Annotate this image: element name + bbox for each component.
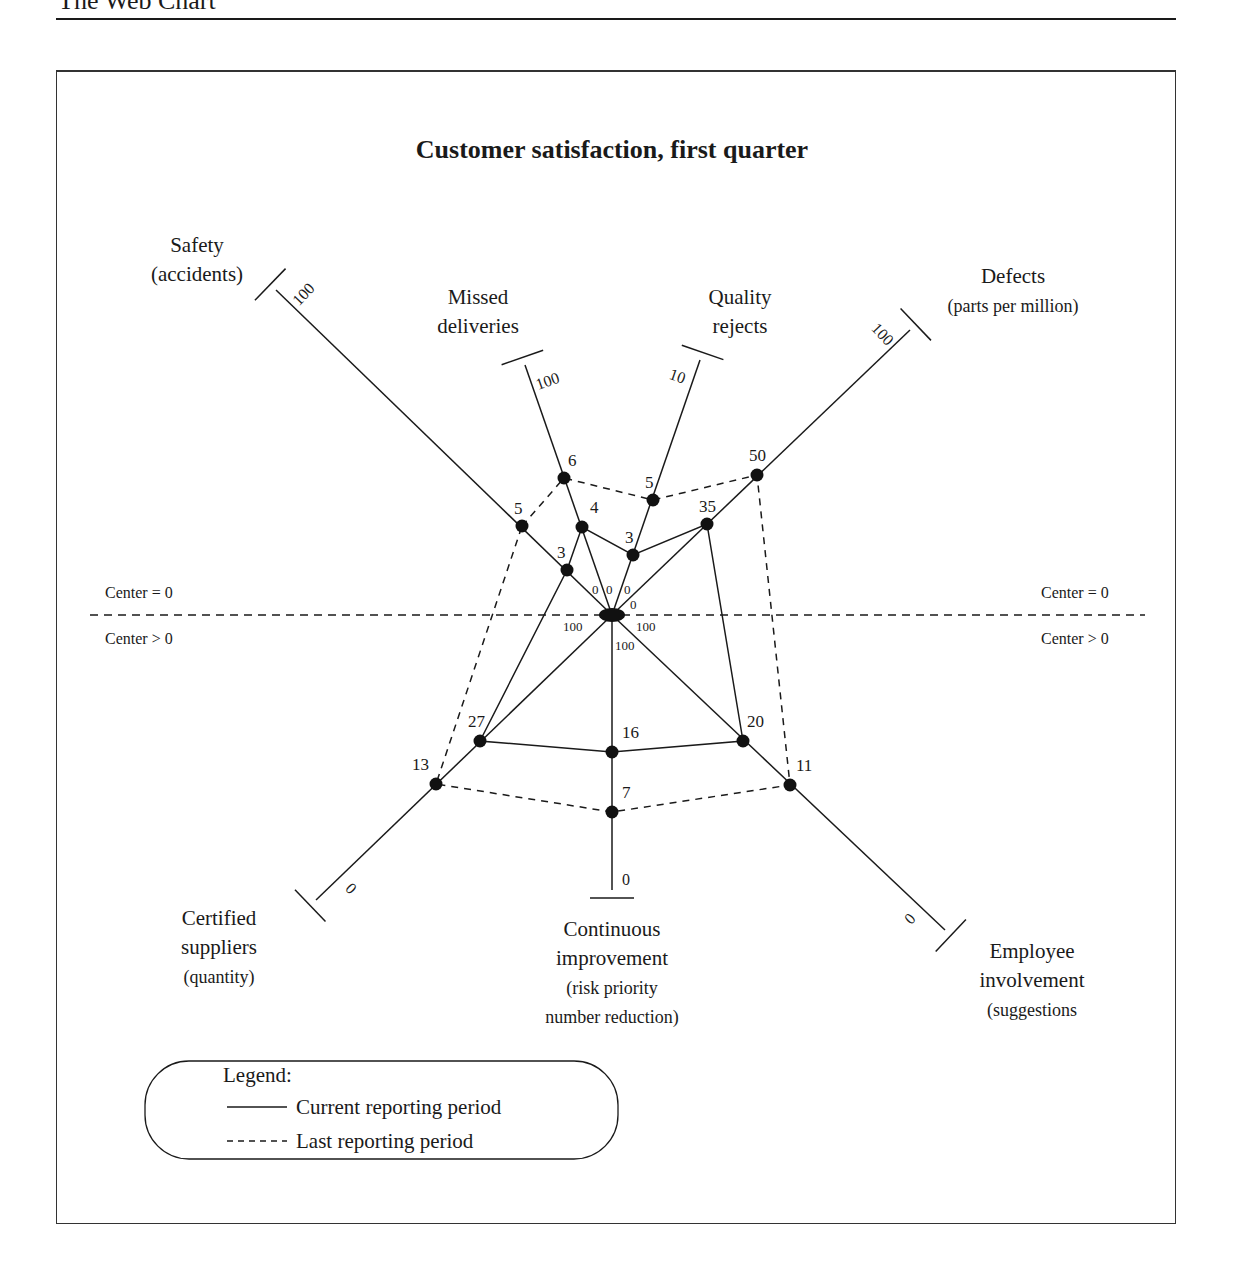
divider-upper-label-right: Center = 0 [1041,584,1109,601]
axis-label-quality-rejects-line-1: rejects [713,314,768,338]
web-chart: Customer satisfaction, first quarter Cen… [0,0,1234,1275]
data-value-continuous-improvement-last: 7 [622,783,631,802]
legend: Legend: Current reporting period Last re… [145,1061,618,1159]
data-value-missed-deliveries-current: 4 [590,498,599,517]
data-point-safety-current [561,564,574,577]
center-value-label: 100 [563,619,583,634]
data-value-quality-rejects-current: 3 [625,528,634,547]
axis-line-safety [276,290,612,615]
data-point-missed-deliveries-last [558,472,571,485]
center-value-label: 100 [636,619,656,634]
axis-line-quality-rejects [612,360,700,615]
chart-title: Customer satisfaction, first quarter [416,135,808,164]
center-hub [599,608,625,622]
center-value-label: 0 [606,582,613,597]
data-point-certified-suppliers-current [474,735,487,748]
axis-line-certified-suppliers [316,615,612,900]
labels-layer: Safety(accidents)MisseddeliveriesQuality… [151,233,1085,1028]
axis-label-continuous-improvement-line-2: (risk priority [566,978,658,999]
data-point-employee-involvement-last [784,779,797,792]
axis-outer-value-safety: 100 [289,280,318,309]
axis-label-continuous-improvement-line-3: number reduction) [545,1007,678,1028]
axis-outer-value-employee-involvement: 0 [901,910,919,927]
data-value-continuous-improvement-current: 16 [622,723,639,742]
data-point-continuous-improvement-last [606,806,619,819]
axis-label-defects-line-1: (parts per million) [948,296,1079,317]
axis-end-tick-missed-deliveries [502,350,544,364]
axis-label-safety-line-0: Safety [170,233,224,257]
axis-label-safety-line-1: (accidents) [151,262,243,286]
axis-outer-value-missed-deliveries: 100 [533,369,561,393]
axis-label-certified-suppliers-line-0: Certified [182,906,257,930]
data-value-safety-current: 3 [557,543,566,562]
data-value-missed-deliveries-last: 6 [568,451,577,470]
axis-label-continuous-improvement-line-0: Continuous [564,917,661,941]
center-value-label: 100 [615,638,635,653]
axis-label-quality-rejects-line-0: Quality [709,285,772,309]
axis-label-missed-deliveries-line-0: Missed [448,285,509,309]
data-point-certified-suppliers-last [430,778,443,791]
axis-outer-value-continuous-improvement: 0 [622,871,630,888]
axis-line-employee-involvement [612,615,945,930]
axis-outer-value-quality-rejects: 10 [667,365,688,386]
divider-upper-label-left: Center = 0 [105,584,173,601]
axis-end-tick-employee-involvement [936,920,966,952]
axis-outer-value-certified-suppliers: 0 [342,880,360,898]
data-point-safety-last [516,520,529,533]
axis-end-tick-quality-rejects [682,345,724,359]
axis-label-employee-involvement-line-2: (suggestions [987,1000,1077,1021]
axis-label-defects-line-0: Defects [981,264,1045,288]
data-point-employee-involvement-current [737,735,750,748]
center-value-label: 0 [624,582,631,597]
data-value-safety-last: 5 [514,499,523,518]
legend-item-last: Last reporting period [296,1129,474,1153]
data-point-quality-rejects-last [647,494,660,507]
series-last-period-polygon [436,475,790,812]
axis-line-missed-deliveries [525,365,612,615]
data-point-defects-last [751,469,764,482]
legend-item-current: Current reporting period [296,1095,502,1119]
data-value-employee-involvement-last: 11 [796,756,812,775]
data-value-defects-current: 35 [699,497,716,516]
axis-label-employee-involvement-line-0: Employee [989,939,1074,963]
center-value-label: 0 [592,582,599,597]
data-value-quality-rejects-last: 5 [645,473,654,492]
divider-lower-label-left: Center > 0 [105,630,173,647]
divider-lower-label-right: Center > 0 [1041,630,1109,647]
axis-label-employee-involvement-line-1: involvement [980,968,1085,992]
data-value-employee-involvement-current: 20 [747,712,764,731]
axis-label-certified-suppliers-line-1: suppliers [181,935,257,959]
axis-outer-value-defects: 100 [868,319,897,348]
data-point-continuous-improvement-current [606,746,619,759]
axis-label-missed-deliveries-line-1: deliveries [437,314,519,338]
data-value-certified-suppliers-current: 27 [468,712,486,731]
data-value-certified-suppliers-last: 13 [412,755,429,774]
data-point-defects-current [701,518,714,531]
legend-title: Legend: [223,1063,292,1087]
axis-label-certified-suppliers-line-2: (quantity) [184,967,255,988]
data-point-missed-deliveries-current [576,521,589,534]
axis-label-continuous-improvement-line-1: improvement [556,946,668,970]
series-layer [430,469,797,819]
data-point-quality-rejects-current [627,549,640,562]
data-value-defects-last: 50 [749,446,766,465]
center-value-label: 0 [630,597,637,612]
